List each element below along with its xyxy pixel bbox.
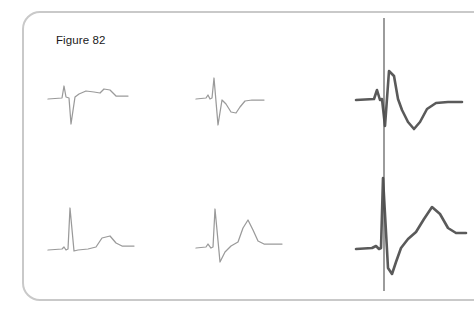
figure-card: Figure 82 — [22, 11, 474, 301]
figure-label: Figure 82 — [56, 34, 105, 46]
